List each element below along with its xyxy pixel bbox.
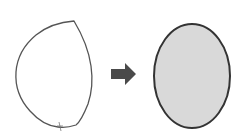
arrow-right-icon (111, 63, 136, 85)
diagram-canvas: Hand-drawn shape Transform arrow Clean e… (0, 0, 242, 140)
diagram-svg (0, 0, 242, 140)
clean-ellipse (154, 24, 230, 128)
hand-drawn-shape (16, 21, 92, 127)
